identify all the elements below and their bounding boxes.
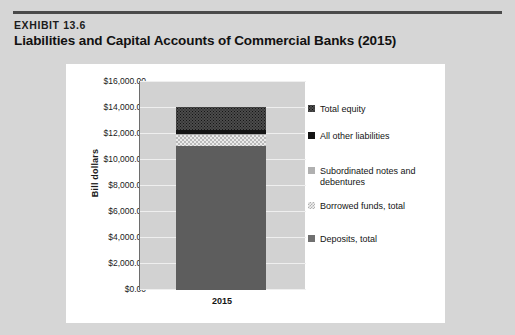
bar-segment-subordinated-notes[interactable]: [176, 134, 266, 135]
legend-item-subordinated-notes[interactable]: Subordinated notes and debentures: [308, 166, 440, 188]
bar-segment-borrowed-funds[interactable]: [176, 135, 266, 146]
legend-item-all-other-liabilities[interactable]: All other liabilities: [308, 131, 390, 142]
plot-area: [139, 81, 305, 290]
legend-swatch-total-equity-icon: [308, 105, 315, 112]
legend-item-deposits[interactable]: Deposits, total: [308, 234, 377, 245]
y-tick-label: $8,000.00: [80, 181, 146, 190]
legend-label: Subordinated notes and debentures: [320, 166, 440, 188]
bar-segment-deposits[interactable]: [176, 146, 266, 290]
exhibit-label: EXHIBIT 13.6: [14, 19, 86, 31]
legend-label: Deposits, total: [320, 234, 377, 245]
y-tick-label: $16,000.00: [80, 77, 146, 86]
y-axis-ticks: $16,000.00 $14,000.00 $12,000.00 $10,000…: [76, 64, 146, 323]
title-rule: [13, 11, 502, 14]
chart-title: Liabilities and Capital Accounts of Comm…: [14, 33, 396, 48]
y-tick-label: $6,000.00: [80, 207, 146, 216]
exhibit-figure: EXHIBIT 13.6 Liabilities and Capital Acc…: [0, 0, 515, 335]
chart-panel: Bill dollars $16,000.00 $14,000.00 $12,0…: [66, 64, 445, 323]
y-tick-label: $10,000.00: [80, 155, 146, 164]
y-tick-label: $0.00: [80, 285, 146, 294]
legend-item-total-equity[interactable]: Total equity: [308, 104, 366, 115]
legend-swatch-subordinated-notes-icon: [308, 167, 315, 174]
legend-swatch-borrowed-funds-icon: [308, 202, 315, 209]
y-tick-label: $12,000.00: [80, 129, 146, 138]
legend-item-borrowed-funds[interactable]: Borrowed funds, total: [308, 201, 405, 212]
gridline: [140, 81, 306, 82]
y-tick-label: $4,000.00: [80, 233, 146, 242]
legend-label: Borrowed funds, total: [320, 201, 405, 212]
legend-swatch-all-other-liabilities-icon: [308, 132, 315, 139]
legend-swatch-deposits-icon: [308, 235, 315, 242]
x-axis-category-label: 2015: [139, 296, 305, 306]
bar-segment-total-equity[interactable]: [176, 107, 266, 130]
y-tick-label: $14,000.00: [80, 103, 146, 112]
y-tick-label: $2,000.00: [80, 259, 146, 268]
legend-label: Total equity: [320, 104, 366, 115]
legend-label: All other liabilities: [320, 131, 390, 142]
bar-segment-other-liabilities[interactable]: [176, 130, 266, 134]
